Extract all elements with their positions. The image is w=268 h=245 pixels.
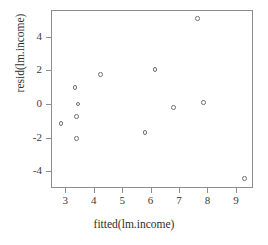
x-axis-tick <box>236 188 237 193</box>
x-axis-tick <box>122 188 123 193</box>
y-axis-tick <box>46 70 51 71</box>
y-axis-tick-label: -4 <box>18 164 42 177</box>
y-axis-tick-label: -2 <box>18 131 42 144</box>
x-axis-tick <box>179 188 180 193</box>
x-axis-tick-label: 3 <box>52 194 78 207</box>
x-axis-tick <box>94 188 95 193</box>
x-axis-tick <box>65 188 66 193</box>
x-axis-tick-label: 4 <box>81 194 107 207</box>
y-axis-title: resid(lm.income) <box>14 0 26 123</box>
x-axis-tick <box>207 188 208 193</box>
x-axis-tick-label: 8 <box>194 194 220 207</box>
y-axis-tick <box>46 37 51 38</box>
x-axis-tick-label: 9 <box>223 194 249 207</box>
plot-frame <box>51 10 253 188</box>
x-axis-tick <box>151 188 152 193</box>
y-axis-tick <box>46 138 51 139</box>
x-axis-tick-label: 5 <box>109 194 135 207</box>
y-axis-tick <box>46 104 51 105</box>
x-axis-tick-label: 6 <box>138 194 164 207</box>
y-axis-tick <box>46 171 51 172</box>
x-axis-tick-label: 7 <box>166 194 192 207</box>
x-axis-title: fitted(lm.income) <box>0 218 268 230</box>
scatter-plot-figure: 3456789 -4-2024 fitted(lm.income) resid(… <box>0 0 268 245</box>
